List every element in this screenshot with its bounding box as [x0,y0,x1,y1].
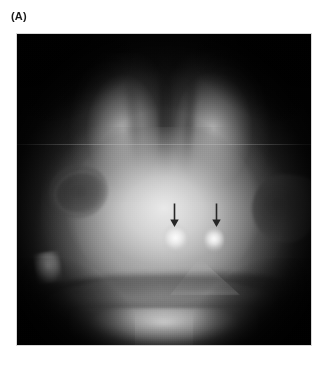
ultrasound-image [17,34,311,345]
panel-label: (A) [11,10,27,23]
speckle-grain-overlay [17,34,311,345]
arrow-left-icon [169,203,180,228]
arrow-right-icon [211,203,222,228]
